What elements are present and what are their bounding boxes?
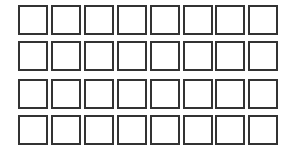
grid-cell-box[interactable] bbox=[248, 41, 278, 71]
grid-cell-box[interactable] bbox=[215, 115, 245, 145]
grid-cell-box[interactable] bbox=[51, 79, 81, 109]
grid-cell-box[interactable] bbox=[183, 41, 213, 71]
grid-cell-box[interactable] bbox=[248, 115, 278, 145]
grid-cell-box[interactable] bbox=[215, 5, 245, 35]
grid-cell-box[interactable] bbox=[18, 41, 48, 71]
grid-cell-box[interactable] bbox=[84, 41, 114, 71]
grid-cell-box[interactable] bbox=[248, 5, 278, 35]
grid-cell-box[interactable] bbox=[117, 41, 147, 71]
grid-cell-box[interactable] bbox=[18, 79, 48, 109]
grid-cell-box[interactable] bbox=[51, 41, 81, 71]
grid-cell-box[interactable] bbox=[18, 115, 48, 145]
grid-cell-box[interactable] bbox=[215, 41, 245, 71]
grid-cell-box[interactable] bbox=[150, 5, 180, 35]
grid-cell-box[interactable] bbox=[84, 79, 114, 109]
grid-cell-box[interactable] bbox=[51, 5, 81, 35]
grid-cell-box[interactable] bbox=[117, 79, 147, 109]
grid-cell-box[interactable] bbox=[183, 115, 213, 145]
grid-cell-box[interactable] bbox=[117, 115, 147, 145]
grid-cell-box[interactable] bbox=[18, 5, 48, 35]
grid-cell-box[interactable] bbox=[183, 79, 213, 109]
grid-cell-box[interactable] bbox=[51, 115, 81, 145]
grid-cell-box[interactable] bbox=[84, 115, 114, 145]
grid-cell-box[interactable] bbox=[150, 79, 180, 109]
grid-cell-box[interactable] bbox=[117, 5, 147, 35]
grid-cell-box[interactable] bbox=[248, 79, 278, 109]
grid-cell-box[interactable] bbox=[150, 115, 180, 145]
grid-cell-box[interactable] bbox=[183, 5, 213, 35]
grid-cell-box[interactable] bbox=[215, 79, 245, 109]
grid-cell-box[interactable] bbox=[84, 5, 114, 35]
grid-cell-box[interactable] bbox=[150, 41, 180, 71]
